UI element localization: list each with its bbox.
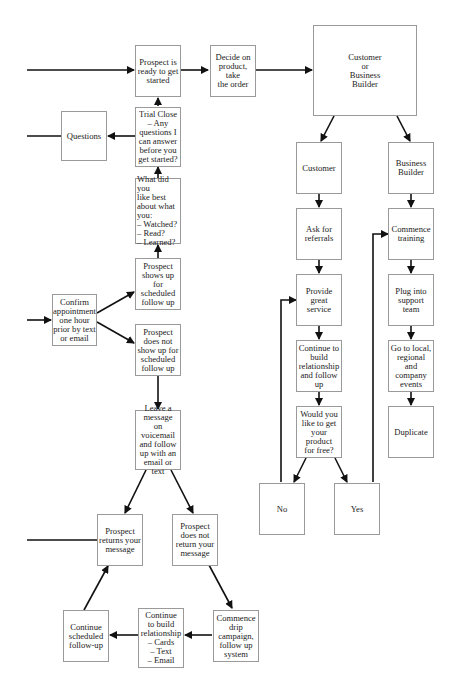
box-prospect-returns: Prospect returns your message bbox=[97, 514, 143, 566]
box-prospect-ready: Prospect is ready to get started bbox=[135, 45, 181, 97]
box-questions: Questions bbox=[61, 111, 107, 161]
box-drip-campaign: Commence drip campaign, follow up system bbox=[213, 610, 259, 662]
box-yes: Yes bbox=[334, 483, 380, 535]
box-events: Go to local, regional and company events bbox=[388, 340, 434, 392]
box-duplicate: Duplicate bbox=[388, 406, 434, 458]
box-what-liked-best: What did you like best about what you: –… bbox=[135, 178, 181, 244]
box-no: No bbox=[259, 483, 305, 535]
box-ask-referrals: Ask for referrals bbox=[296, 208, 342, 260]
box-prospect-not-return: Prospect does not return your message bbox=[172, 514, 218, 566]
box-business-builder: Business Builder bbox=[388, 142, 434, 194]
box-provide-great-service: Provide great service bbox=[296, 274, 342, 326]
box-continue-scheduled: Continue scheduled follow-up bbox=[63, 610, 109, 662]
box-leave-voicemail: Leave a message on voicemail and follow … bbox=[135, 410, 181, 470]
box-confirm-appointment: Confirm appointment one hour prior by te… bbox=[52, 294, 97, 346]
box-customer-or-business-builder: Customer or Business Builder bbox=[313, 25, 417, 116]
box-customer: Customer bbox=[296, 142, 342, 194]
box-continue-relationship: Continue to build relationship and follo… bbox=[296, 340, 342, 392]
box-commence-training: Commence training bbox=[388, 208, 434, 260]
box-support-team: Plug into support team bbox=[388, 274, 434, 326]
box-trial-close: Trial Close – Any questions I can answer… bbox=[135, 107, 181, 167]
box-continue-build-relationship: Continue to build relationship – Cards –… bbox=[138, 608, 184, 668]
box-decide-product: Decide on product, take the order bbox=[210, 45, 256, 97]
box-prospect-no-show: Prospect does not show up for scheduled … bbox=[135, 324, 181, 376]
box-prospect-shows-up: Prospect shows up for scheduled follow u… bbox=[135, 258, 181, 310]
flowchart-canvas: Prospect is ready to get started Decide … bbox=[0, 0, 456, 692]
box-free-product-question: Would you like to get your product for f… bbox=[296, 406, 342, 458]
